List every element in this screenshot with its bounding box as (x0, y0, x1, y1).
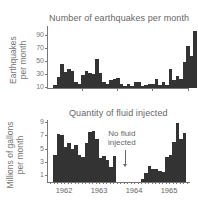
fluid-panel: Quantity of fluid injected Millions of g… (0, 100, 197, 206)
fluid-x-minor-tick (82, 182, 83, 184)
fluid-x-minor-tick (169, 182, 170, 184)
fluid-x-minor-tick (92, 182, 93, 184)
fluid-x-minor-tick (71, 182, 72, 184)
earthquakes-x-tick (188, 88, 189, 91)
fluid-x-minor-tick (54, 182, 55, 184)
earthquakes-x-tick (82, 88, 83, 91)
fluid-x-minor-tick (50, 182, 51, 184)
fluid-x-minor-tick (159, 182, 160, 184)
earthquakes-x-tick (117, 88, 118, 91)
fluid-y-tick-label: 3 (30, 158, 44, 165)
earthquakes-y-tick-label: 90 (30, 31, 44, 38)
fluid-x-minor-tick (113, 182, 114, 184)
earthquakes-y-tick (45, 87, 48, 88)
fluid-x-minor-tick (124, 182, 125, 184)
fluid-x-minor-tick (166, 182, 167, 184)
fluid-x-minor-tick (180, 182, 181, 184)
earthquakes-y-tick (45, 74, 48, 75)
fluid-x-minor-tick (162, 182, 163, 184)
earthquakes-y-tick (45, 35, 48, 36)
fluid-bar (113, 156, 117, 182)
earthquakes-panel: Number of earthquakes per month Earthqua… (0, 0, 197, 100)
earthquakes-y-tick-label: 70 (30, 44, 44, 51)
fluid-x-minor-tick (148, 182, 149, 184)
fluid-y-tick-label: 5 (30, 145, 44, 152)
fluid-x-minor-tick (127, 182, 128, 184)
fluid-y-axis (47, 120, 48, 183)
fluid-x-minor-tick (131, 182, 132, 184)
earthquakes-x-tick (152, 88, 153, 91)
fluid-y-tick-label: 7 (30, 131, 44, 138)
fluid-x-minor-tick (106, 182, 107, 184)
fluid-y-tick (45, 135, 48, 136)
fluid-x-minor-tick (99, 182, 100, 184)
fluid-x-minor-tick (138, 182, 139, 184)
earthquakes-bar (197, 84, 198, 88)
fluid-x-minor-tick (57, 182, 58, 184)
fluid-x-minor-tick (176, 182, 177, 184)
fluid-x-minor-tick (145, 182, 146, 184)
fluid-x-tick-label: 1962 (52, 186, 76, 195)
fluid-y-tick (45, 122, 48, 123)
fluid-x-minor-tick (61, 182, 62, 184)
fluid-x-tick-label: 1963 (87, 186, 111, 195)
fluid-x-minor-tick (110, 182, 111, 184)
fluid-y-tick (45, 149, 48, 150)
fluid-x-minor-tick (96, 182, 97, 184)
fluid-x-minor-tick (152, 182, 153, 184)
fluid-y-tick-label: 1 (30, 171, 44, 178)
fluid-x-minor-tick (183, 182, 184, 184)
fluid-plot: 135791962196319641965 (0, 100, 197, 206)
earthquakes-plot: 1030507090 (0, 0, 197, 100)
earthquakes-y-tick-label: 50 (30, 57, 44, 64)
fluid-x-minor-tick (103, 182, 104, 184)
fluid-x-minor-tick (187, 182, 188, 184)
fluid-x-minor-tick (141, 182, 142, 184)
fluid-x-minor-tick (134, 182, 135, 184)
fluid-x-tick-label: 1964 (122, 186, 146, 195)
earthquakes-y-tick-label: 10 (30, 83, 44, 90)
fluid-y-tick (45, 175, 48, 176)
fluid-x-minor-tick (85, 182, 86, 184)
fluid-x-minor-tick (155, 182, 156, 184)
fluid-bar (183, 133, 187, 182)
fluid-x-minor-tick (78, 182, 79, 184)
earthquakes-bar (193, 31, 197, 88)
earthquakes-y-tick (45, 48, 48, 49)
fluid-x-minor-tick (89, 182, 90, 184)
fluid-x-minor-tick (75, 182, 76, 184)
fluid-y-tick (45, 162, 48, 163)
fluid-y-tick-label: 9 (30, 118, 44, 125)
earthquakes-y-tick (45, 61, 48, 62)
fluid-x-minor-tick (173, 182, 174, 184)
fluid-x-minor-tick (117, 182, 118, 184)
fluid-x-minor-tick (68, 182, 69, 184)
earthquakes-y-tick-label: 30 (30, 70, 44, 77)
fluid-x-tick-label: 1965 (157, 186, 181, 195)
fluid-x-minor-tick (120, 182, 121, 184)
fluid-x-minor-tick (64, 182, 65, 184)
